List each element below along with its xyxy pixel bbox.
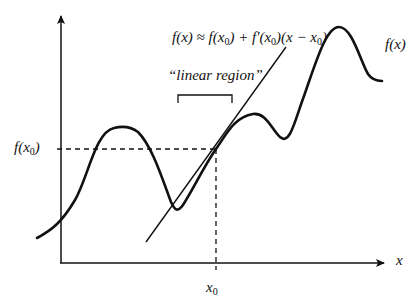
x-tick-label-x0: x0	[206, 280, 218, 297]
function-curve	[37, 27, 382, 238]
fx0-main: f(x	[14, 139, 30, 155]
linear-region-bracket	[178, 95, 232, 103]
y-tick-label-fx0: f(x0)	[14, 140, 40, 157]
fx0-close: )	[35, 139, 40, 155]
formula-plus: +	[234, 29, 252, 45]
curve-label: f(x)	[385, 37, 406, 52]
formula-approx: ≈	[193, 29, 209, 45]
formula-term2: f'(x	[252, 29, 271, 45]
formula-paren-open: (x − x	[281, 29, 317, 45]
formula-lhs: f(x)	[172, 29, 193, 45]
x0-sub: 0	[213, 286, 218, 297]
tangent-formula: f(x) ≈ f(x0) + f'(x0)(x − x0)	[172, 30, 327, 47]
x-axis-label: x	[396, 253, 403, 268]
linear-region-label: “linear region”	[168, 68, 263, 83]
formula-paren-close: )	[322, 29, 327, 45]
formula-term1: f(x	[209, 29, 225, 45]
x0-main: x	[206, 279, 213, 295]
